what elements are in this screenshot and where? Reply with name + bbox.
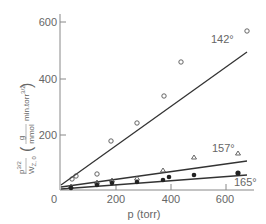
y-title-unit-tail: min.torr3/2 xyxy=(20,85,31,121)
data-point xyxy=(109,139,113,143)
x-tick-label-0: 0 xyxy=(51,193,57,205)
x-tick-label-400: 400 xyxy=(162,193,180,205)
data-point xyxy=(236,151,241,155)
x-tick-label-200: 200 xyxy=(107,193,125,205)
series-142-markers xyxy=(70,29,249,181)
x-tick-label-600: 600 xyxy=(216,193,234,205)
data-point xyxy=(135,121,139,125)
data-point xyxy=(235,170,240,175)
y-title-numerator: p3/2 xyxy=(16,161,26,174)
y-tick-label-200: 200 xyxy=(39,129,57,141)
data-point xyxy=(161,168,166,172)
data-point xyxy=(245,29,249,33)
data-point xyxy=(192,173,197,178)
data-point xyxy=(69,186,74,191)
x-axis-title: p (torr) xyxy=(128,208,161,220)
y-title-paren-left: ( xyxy=(18,146,35,152)
data-point xyxy=(162,94,166,98)
y-tick-label-400: 400 xyxy=(39,73,57,85)
data-point xyxy=(95,183,100,188)
curve-label-142: 142° xyxy=(211,33,234,45)
data-point xyxy=(179,60,183,64)
fit-line-165 xyxy=(61,175,247,189)
curve-label-157: 157° xyxy=(212,142,235,154)
data-point xyxy=(167,175,172,180)
y-axis-title: p3/2 WZ, 0 ( g mmol min.torr3/2 ) xyxy=(16,83,37,174)
data-point xyxy=(110,181,115,186)
y-title-unit-num: g xyxy=(17,136,26,140)
data-point xyxy=(95,172,99,176)
y-tick-label-600: 600 xyxy=(39,16,57,28)
y-title-denominator: WZ, 0 xyxy=(27,155,37,174)
chart-figure: 600 400 200 0 200 400 600 p (torr) p3/2 … xyxy=(0,0,266,224)
curve-label-165: 165° xyxy=(234,176,257,188)
data-point xyxy=(135,180,140,185)
data-point xyxy=(161,178,166,183)
y-title-unit-den: mmol xyxy=(27,124,36,144)
data-point xyxy=(192,155,197,159)
y-title-paren-right: ) xyxy=(18,83,35,88)
